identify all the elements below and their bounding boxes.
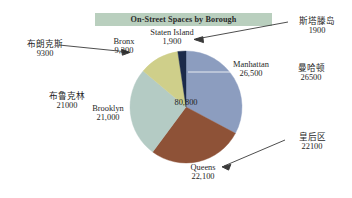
pie-total-label: 80,800: [160, 98, 212, 107]
annotation-manhattan: 曼哈顿 26500: [282, 64, 340, 82]
slice-label-queens: Queens 22,100: [178, 163, 228, 181]
annotation-brooklyn: 布鲁克林 21000: [34, 92, 100, 110]
slice-label-manhattan-value: 26,500: [222, 69, 280, 78]
slice-label-queens-value: 22,100: [178, 172, 228, 181]
annotation-staten-island: 斯塔滕岛 1900: [286, 17, 348, 35]
chart-canvas: On-Street Spaces by Borough Staten: [0, 0, 352, 198]
slice-label-bronx: Bronx 9,300: [100, 37, 148, 55]
slice-label-manhattan-name: Manhattan: [222, 60, 280, 69]
annotation-staten-island-name: 斯塔滕岛: [286, 17, 348, 26]
queens-arrow-line: [224, 140, 285, 166]
annotation-bronx: 布朗克斯 9300: [12, 40, 78, 58]
slice-label-staten-island-name: Staten Island: [133, 28, 211, 37]
annotation-manhattan-name: 曼哈顿: [282, 64, 340, 73]
slice-label-manhattan: Manhattan 26,500: [222, 60, 280, 78]
annotation-brooklyn-name: 布鲁克林: [34, 92, 100, 101]
annotation-queens-name: 皇后区: [285, 133, 339, 142]
annotation-manhattan-value: 26500: [282, 73, 340, 82]
annotation-queens: 皇后区 22100: [285, 133, 339, 151]
annotation-bronx-value: 9300: [12, 49, 78, 58]
slice-label-queens-name: Queens: [178, 163, 228, 172]
slice-label-bronx-name: Bronx: [100, 37, 148, 46]
annotation-bronx-name: 布朗克斯: [12, 40, 78, 49]
annotation-brooklyn-value: 21000: [34, 101, 100, 110]
slice-label-brooklyn-value: 21,000: [82, 113, 134, 122]
annotation-queens-value: 22100: [285, 142, 339, 151]
slice-label-bronx-value: 9,300: [100, 46, 148, 55]
annotation-staten-island-value: 1900: [286, 26, 348, 35]
